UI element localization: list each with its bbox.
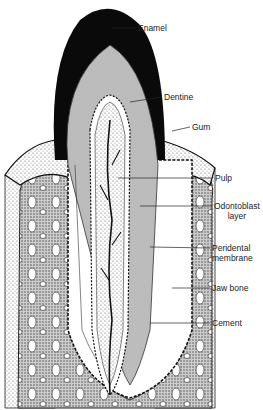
label-cement: Cement xyxy=(212,318,242,328)
label-odontoblast-line2: layer xyxy=(228,211,246,221)
label-pulp: Pulp xyxy=(215,173,232,183)
label-peridental-line1: Peridental xyxy=(212,243,250,253)
label-enamel: Enamel xyxy=(138,23,167,33)
pulp-chamber xyxy=(90,95,130,395)
label-gum: Gum xyxy=(192,122,210,132)
label-peridental-line2: membrane xyxy=(212,253,253,263)
label-dentine: Dentine xyxy=(164,92,193,102)
label-odontoblast-line1: Odontoblast xyxy=(214,201,260,211)
label-jaw-bone: Jaw bone xyxy=(212,283,248,293)
label-odontoblast-layer: Odontoblast layer xyxy=(214,201,260,221)
label-peridental-membrane: Peridental membrane xyxy=(212,243,253,263)
